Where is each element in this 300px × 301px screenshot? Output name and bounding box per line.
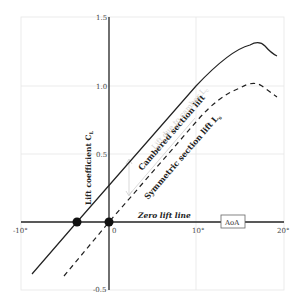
y-axis-label: Lift coefficient CL (84, 131, 94, 205)
zero-lift-line-label: Zero lift line (137, 211, 191, 220)
symmetric-zero-lift-point (105, 218, 114, 227)
aoa-box: AoA (221, 215, 245, 228)
lift-coefficient-chart: 1.5 1.0 0.5 -0.5 -10° 0 10° 20° Lift coe… (0, 0, 300, 301)
svg-text:Lift due to camber Lc: Lift due to camber Lc (150, 84, 211, 152)
symmetric-lift-curve (64, 83, 277, 276)
svg-text:AoA: AoA (224, 219, 240, 227)
x-tick-20: 20° (277, 227, 289, 235)
y-tick-0.5: 0.5 (96, 151, 107, 159)
y-tick-minus-0.5: -0.5 (93, 286, 107, 294)
x-tick-0: 0 (112, 227, 116, 235)
cambered-zero-lift-point (73, 218, 82, 227)
svg-text:Lift coefficient CL: Lift coefficient CL (84, 131, 94, 205)
x-tick-minus-10: -10° (13, 227, 28, 235)
camber-lift-label: Lift due to camber Lc (150, 84, 211, 152)
y-tick-1.0: 1.0 (96, 83, 107, 91)
y-tick-1.5: 1.5 (96, 14, 107, 22)
x-tick-10: 10° (192, 227, 204, 235)
